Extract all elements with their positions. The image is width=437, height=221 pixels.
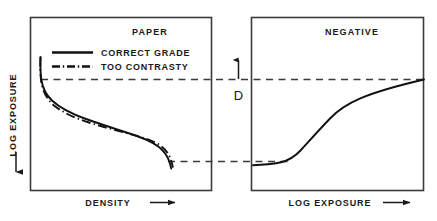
curve-too-contrasty bbox=[40, 57, 173, 168]
curve-negative bbox=[253, 80, 424, 166]
paper-panel-title: PAPER bbox=[132, 27, 168, 37]
negative-panel-title: NEGATIVE bbox=[325, 27, 379, 37]
negative-x-axis-label: LOG EXPOSURE bbox=[289, 198, 372, 208]
density-range-annotation: D bbox=[234, 60, 243, 103]
legend-label-too-contrasty: TOO CONTRASTY bbox=[101, 62, 189, 72]
figure-root: PAPER CORRECT GRADE TOO CONTRASTY LOG EX… bbox=[0, 0, 437, 221]
curve-correct-grade bbox=[40, 57, 171, 169]
legend-label-correct-grade: CORRECT GRADE bbox=[101, 48, 190, 58]
paper-x-axis-label: DENSITY bbox=[85, 198, 130, 208]
paper-y-axis-label: LOG EXPOSURE bbox=[8, 74, 18, 157]
density-label: D bbox=[234, 88, 243, 103]
figure-canvas: PAPER CORRECT GRADE TOO CONTRASTY LOG EX… bbox=[0, 0, 437, 221]
negative-panel-frame bbox=[252, 18, 424, 191]
paper-legend: CORRECT GRADE TOO CONTRASTY bbox=[52, 48, 190, 72]
